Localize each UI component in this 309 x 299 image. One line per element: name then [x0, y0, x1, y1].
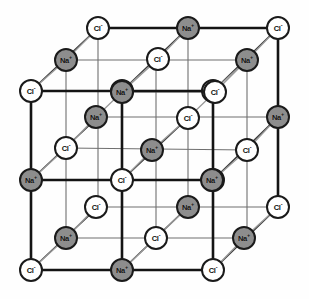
ion-charge: +	[281, 111, 284, 117]
ion-label: Na+	[206, 177, 218, 185]
ion-label: Cl-	[209, 267, 218, 275]
ion-label: Cl-	[184, 115, 193, 123]
ion-chloride: Cl-	[266, 195, 290, 219]
ion-label: Na+	[90, 114, 102, 122]
ion-sodium: Na+	[232, 226, 256, 250]
ion-sodium: Na+	[19, 168, 43, 192]
ion-sodium: Na+	[176, 16, 200, 40]
ion-label: Na+	[60, 57, 72, 65]
ion-charge: +	[125, 86, 128, 92]
ion-label: Na+	[182, 204, 194, 212]
ion-label: Cl-	[154, 56, 163, 64]
ion-sodium: Na+	[54, 226, 78, 250]
ion-chloride: Cl-	[203, 80, 227, 104]
ion-label: Cl-	[92, 204, 101, 212]
ion-sodium: Na+	[200, 168, 224, 192]
ion-label: Cl-	[243, 147, 252, 155]
ion-sodium: Na+	[110, 80, 134, 104]
ion-charge: -	[34, 85, 36, 91]
nacl-lattice-figure: Cl-Na+Cl-Na+Cl-Na+Cl-Na+Cl-Na+Cl-Na+Cl-N…	[0, 0, 309, 299]
ion-chloride: Cl-	[110, 168, 134, 192]
ion-charge: +	[191, 201, 194, 207]
ion-label: Na+	[25, 177, 37, 185]
ion-chloride: Cl-	[19, 79, 43, 103]
ion-charge: +	[34, 174, 37, 180]
ion-charge: +	[69, 54, 72, 60]
ion-chloride: Cl-	[146, 47, 170, 71]
ion-chloride: Cl-	[144, 226, 168, 250]
ion-charge: -	[125, 174, 127, 180]
ion-sodium: Na+	[266, 105, 290, 129]
ion-charge: +	[125, 264, 128, 270]
ion-charge: +	[99, 111, 102, 117]
ion-label: Na+	[238, 235, 250, 243]
ion-chloride: Cl-	[266, 16, 290, 40]
ion-label: Cl-	[152, 235, 161, 243]
ion-charge: +	[69, 232, 72, 238]
ion-chloride: Cl-	[54, 136, 78, 160]
ion-chloride: Cl-	[176, 106, 200, 130]
ion-label: Na+	[146, 147, 158, 155]
ion-charge: -	[69, 142, 71, 148]
ion-sodium: Na+	[84, 105, 108, 129]
ion-charge: -	[250, 144, 252, 150]
ion-label: Na+	[60, 235, 72, 243]
ion-label: Na+	[182, 25, 194, 33]
ion-charge: -	[281, 201, 283, 207]
ion-label: Cl-	[274, 25, 283, 33]
ion-charge: -	[34, 264, 36, 270]
ion-charge: -	[161, 53, 163, 59]
ion-charge: +	[155, 144, 158, 150]
ion-chloride: Cl-	[235, 138, 259, 162]
ion-chloride: Cl-	[84, 195, 108, 219]
ion-label: Cl-	[118, 177, 127, 185]
ion-charge: +	[247, 232, 250, 238]
ion-label: Cl-	[274, 204, 283, 212]
ion-charge: +	[215, 174, 218, 180]
ion-label: Cl-	[211, 89, 220, 97]
ion-sodium: Na+	[54, 48, 78, 72]
ion-sodium: Na+	[235, 48, 259, 72]
ion-label: Cl-	[62, 145, 71, 153]
ion-label: Na+	[116, 89, 128, 97]
ion-sodium: Na+	[140, 138, 164, 162]
ion-chloride: Cl-	[19, 258, 43, 282]
ion-label: Na+	[272, 114, 284, 122]
ion-label: Na+	[241, 57, 253, 65]
ion-chloride: Cl-	[86, 16, 110, 40]
ion-charge: -	[191, 112, 193, 118]
ion-label: Na+	[116, 267, 128, 275]
ion-charge: +	[250, 54, 253, 60]
ion-sodium: Na+	[110, 258, 134, 282]
ion-label: Cl-	[27, 88, 36, 96]
ion-label: Cl-	[27, 267, 36, 275]
ion-charge: -	[216, 264, 218, 270]
ion-charge: -	[218, 86, 220, 92]
ion-label: Cl-	[94, 25, 103, 33]
ion-charge: -	[99, 201, 101, 207]
ion-charge: -	[101, 22, 103, 28]
ion-charge: -	[281, 22, 283, 28]
ion-sodium: Na+	[176, 195, 200, 219]
ion-charge: -	[159, 232, 161, 238]
ion-chloride: Cl-	[201, 258, 225, 282]
ion-charge: +	[191, 22, 194, 28]
